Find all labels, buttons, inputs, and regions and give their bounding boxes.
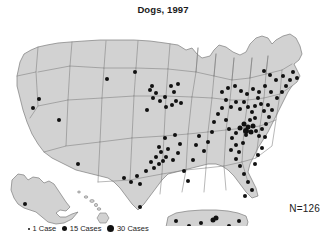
case-dot: [291, 70, 295, 74]
case-dot: [275, 96, 279, 100]
case-dot: [270, 108, 274, 112]
case-dot: [249, 130, 254, 135]
case-dot: [152, 166, 156, 170]
legend-label-1-case: 1 Case: [33, 224, 57, 233]
case-dot: [248, 118, 252, 122]
case-dot: [281, 74, 285, 78]
case-dot: [229, 148, 233, 152]
case-dot: [150, 84, 154, 88]
case-dot: [133, 70, 137, 74]
case-dot: [157, 162, 161, 166]
case-dot: [257, 90, 261, 94]
case-dot: [253, 104, 257, 108]
case-dot: [164, 155, 168, 159]
case-dot: [37, 97, 41, 101]
case-dot: [263, 84, 267, 88]
case-dot: [242, 172, 246, 176]
case-dot: [268, 73, 272, 77]
case-dot: [214, 216, 219, 221]
case-dot: [154, 155, 158, 159]
case-dot: [250, 110, 254, 114]
case-dot: [191, 158, 195, 162]
case-dot: [171, 158, 175, 162]
case-dot: [226, 86, 230, 90]
case-dot: [194, 143, 198, 147]
puerto-rico-inset-landmass: [166, 210, 248, 226]
case-dot: [243, 194, 247, 198]
case-dot: [230, 136, 234, 140]
hawaii-inset-landmass: [78, 191, 109, 223]
case-dot: [151, 96, 155, 100]
case-dot: [251, 124, 256, 129]
case-dot: [176, 82, 180, 86]
case-dot: [129, 180, 133, 184]
case-dot: [238, 107, 242, 111]
case-dot: [238, 126, 243, 131]
case-dot: [227, 127, 231, 131]
case-dot: [202, 149, 206, 153]
case-dot: [170, 103, 174, 107]
alaska-inset-landmass: [11, 174, 78, 224]
case-dot: [253, 116, 257, 120]
us-map-canvas: [0, 14, 326, 226]
case-dot: [264, 122, 268, 126]
case-dot: [288, 78, 292, 82]
case-dot: [172, 90, 176, 94]
case-dot: [295, 76, 299, 80]
case-dot: [23, 202, 27, 206]
legend-item-30-cases: 30 Cases: [107, 224, 148, 233]
case-dot: [262, 69, 266, 73]
case-dot: [135, 174, 139, 178]
case-dot: [220, 90, 224, 94]
case-dot: [259, 102, 263, 106]
case-dot: [246, 180, 250, 184]
legend: 1 Case 15 Cases 30 Cases: [28, 224, 155, 233]
case-dot: [138, 182, 142, 186]
map-landmasses: [11, 34, 302, 226]
case-dot: [237, 219, 241, 223]
case-dot: [148, 88, 152, 92]
legend-label-15-cases: 15 Cases: [70, 224, 102, 233]
case-dot: [158, 99, 162, 103]
case-dot: [284, 84, 288, 88]
case-dot: [169, 84, 173, 88]
case-dot: [250, 188, 254, 192]
case-dot: [256, 153, 260, 157]
case-dot: [234, 100, 238, 104]
case-dot: [260, 146, 264, 150]
case-dot: [263, 135, 267, 139]
case-dot: [122, 176, 126, 180]
case-dot: [253, 162, 257, 166]
case-dot: [237, 150, 241, 154]
case-dot: [224, 98, 228, 102]
legend-item-15-cases: 15 Cases: [62, 224, 101, 233]
case-dot: [220, 106, 224, 110]
case-dot: [216, 112, 220, 116]
case-dot: [212, 120, 216, 124]
legend-dot-small: [28, 228, 30, 230]
case-dot: [176, 151, 180, 155]
case-dot: [174, 99, 178, 103]
case-dot: [246, 105, 250, 109]
legend-label-30-cases: 30 Cases: [117, 224, 149, 233]
case-dot: [178, 142, 182, 146]
case-dot: [224, 118, 228, 122]
legend-dot-large: [107, 225, 114, 232]
contiguous-us-landmass: [17, 34, 302, 210]
case-dot: [239, 89, 243, 93]
case-dot: [105, 77, 109, 81]
case-dot: [174, 219, 178, 223]
case-dot: [233, 84, 237, 88]
case-dot: [234, 143, 238, 147]
case-dot: [197, 134, 201, 138]
case-dot: [257, 134, 261, 138]
case-dot: [163, 95, 167, 99]
case-dot: [238, 164, 242, 168]
case-dot: [254, 129, 258, 133]
case-dot: [199, 221, 203, 225]
case-dot: [269, 90, 273, 94]
case-dot: [243, 128, 249, 134]
case-dot: [145, 108, 149, 112]
case-dot: [164, 105, 168, 109]
rabies-dot-map-figure: Dogs, 1997: [0, 0, 326, 244]
